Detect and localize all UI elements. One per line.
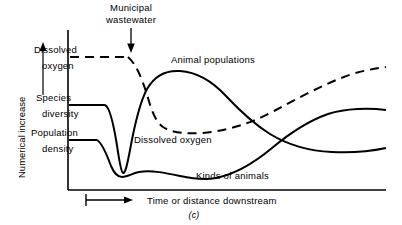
dissolved-oxygen-curve (128, 57, 386, 133)
x-axis-label: Time or distance downstream (147, 195, 277, 206)
population-density-label-line1: Population (31, 127, 78, 138)
wastewater-annotation-line1: Municipal (91, 2, 171, 13)
dissolved-oxygen-start-label-line1: Dissolved (34, 44, 77, 55)
dissolved-oxygen-label: Dissolved oxygen (134, 134, 212, 145)
species-diversity-label-line1: Species (36, 92, 71, 103)
population-density-label-line2: density (42, 143, 74, 154)
wastewater-annotation-line2: wastewater (91, 14, 171, 25)
species-diversity-label-line2: diversity (42, 108, 79, 119)
kinds-of-animals-label: Kinds of animals (196, 170, 269, 181)
animal-populations-curve (105, 71, 386, 173)
right-arrow-icon (86, 194, 133, 206)
figure-container: Numerical increase Municipal wastewater … (0, 0, 402, 225)
down-arrow-icon (127, 28, 135, 53)
y-axis-label: Numerical increase (16, 97, 27, 178)
dissolved-oxygen-start-label-line2: oxygen (42, 60, 74, 71)
animal-populations-label: Animal populations (171, 54, 255, 65)
figure-caption: (c) (174, 210, 214, 220)
